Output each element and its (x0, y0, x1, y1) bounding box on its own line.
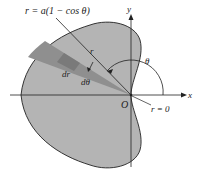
x-axis-label: x (187, 90, 192, 100)
theta-label: θ (145, 56, 150, 66)
curve-equation-label: r = a(1 − cos θ) (25, 5, 90, 17)
origin-label: O (121, 99, 128, 110)
y-axis-label: y (126, 4, 131, 14)
r-zero-leader (132, 96, 151, 105)
r-zero-label: r = 0 (151, 104, 170, 114)
dr-label: dr (62, 69, 71, 79)
origin-point (130, 94, 133, 97)
dtheta-label: dθ (81, 77, 91, 87)
y-axis-arrowhead (129, 14, 134, 20)
x-axis-arrowhead (181, 93, 187, 98)
cardioid-polar-diagram: r = a(1 − cos θ) r dr dθ θ O r = 0 x y (0, 0, 197, 178)
radius-label: r (90, 46, 94, 56)
